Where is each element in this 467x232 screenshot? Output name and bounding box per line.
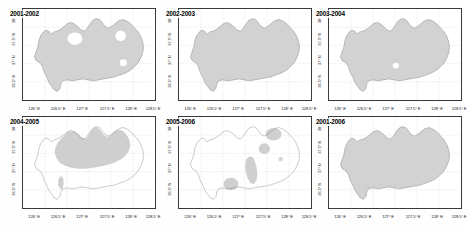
x-tick-label: 127° E [76, 214, 87, 219]
panel-title: 2005-2006 [165, 118, 196, 126]
figure-canvas: 38° N 37.5° N 37° N 36.5° N [0, 0, 467, 232]
x-axis-labels: 126° E 126.5° E 127° E 127.5° E 128° E 1… [178, 209, 312, 224]
y-tick-label: 37.5° N [12, 33, 16, 46]
y-axis-labels: 38° N 37.5° N 37° N 36.5° N [312, 8, 328, 100]
x-tick-label: 128.5° E [452, 106, 467, 111]
x-tick-label: 128° E [125, 106, 136, 111]
x-tick-label: 128.5° E [146, 214, 161, 219]
y-tick-label: 37° N [318, 55, 322, 65]
x-axis-labels: 126° E 126.5° E 127° E 127.5° E 128° E 1… [178, 101, 312, 116]
shaded-coverage [223, 128, 282, 190]
x-tick-label: 128° E [125, 214, 136, 219]
x-tick-label: 128° E [281, 106, 292, 111]
y-tick-label: 36.5° N [12, 183, 16, 196]
y-tick-label: 36.5° N [168, 183, 172, 196]
x-tick-label: 127.5° E [100, 106, 115, 111]
y-tick-label: 37.5° N [168, 141, 172, 154]
y-tick-label: 37° N [168, 163, 172, 173]
x-tick-label: 128° E [431, 214, 442, 219]
region-outline [340, 19, 449, 92]
x-tick-label: 128° E [431, 106, 442, 111]
x-tick-label: 127° E [232, 106, 243, 111]
x-tick-label: 127° E [382, 214, 393, 219]
x-tick-label: 127.5° E [406, 214, 421, 219]
region-outline [190, 127, 299, 200]
x-tick-label: 127.5° E [256, 214, 271, 219]
x-tick-label: 128° E [281, 214, 292, 219]
x-tick-label: 128.5° E [452, 214, 467, 219]
x-tick-label: 127.5° E [256, 106, 271, 111]
x-tick-label: 126° E [184, 214, 195, 219]
region-outline [190, 19, 299, 92]
x-tick-label: 127° E [382, 106, 393, 111]
plot-area [22, 116, 156, 209]
y-tick-label: 37.5° N [318, 33, 322, 46]
x-tick-label: 126.5° E [357, 214, 372, 219]
y-axis-labels: 38° N 37.5° N 37° N 36.5° N [312, 116, 328, 208]
region-outline [34, 19, 143, 92]
map-panel-2003-2004[interactable]: 38° N 37.5° N 37° N 36.5° N [312, 8, 462, 116]
y-tick-label: 37° N [12, 55, 16, 65]
y-tick-label: 37.5° N [168, 33, 172, 46]
y-tick-label: 37.5° N [318, 141, 322, 154]
unshaded-gaps [393, 63, 399, 69]
panel-title: 2002-2003 [165, 10, 196, 18]
y-tick-label: 37° N [12, 163, 16, 173]
x-tick-label: 126° E [334, 106, 345, 111]
plot-area [328, 8, 462, 101]
panel-title: 2001-2006 [315, 118, 346, 126]
x-tick-label: 126° E [334, 214, 345, 219]
x-tick-label: 128.5° E [146, 106, 161, 111]
y-tick-label: 36.5° N [168, 75, 172, 88]
y-tick-label: 36.5° N [12, 75, 16, 88]
y-axis-labels: 38° N 37.5° N 37° N 36.5° N [6, 116, 22, 208]
y-axis-labels: 38° N 37.5° N 37° N 36.5° N [162, 8, 178, 100]
x-axis-labels: 126° E 126.5° E 127° E 127.5° E 128° E 1… [328, 209, 462, 224]
panel-title: 2004-2005 [9, 118, 40, 126]
y-axis-labels: 38° N 37.5° N 37° N 36.5° N [162, 116, 178, 208]
x-tick-label: 127.5° E [100, 214, 115, 219]
plot-area [328, 116, 462, 209]
y-tick-label: 36.5° N [318, 183, 322, 196]
shaded-coverage [55, 128, 131, 189]
x-tick-label: 126.5° E [207, 106, 222, 111]
x-tick-label: 126° E [28, 106, 39, 111]
x-tick-label: 126.5° E [357, 106, 372, 111]
x-axis-labels: 126° E 126.5° E 127° E 127.5° E 128° E 1… [328, 101, 462, 116]
map-panel-2001-2006[interactable]: 38° N 37.5° N 37° N 36.5° N [312, 116, 462, 224]
x-tick-label: 126° E [184, 106, 195, 111]
x-tick-label: 127° E [76, 106, 87, 111]
map-panel-2002-2003[interactable]: 38° N 37.5° N 37° N 36.5° N [162, 8, 312, 116]
plot-area [178, 8, 312, 101]
gridlines [179, 117, 311, 208]
region-outline [340, 127, 449, 200]
y-axis-labels: 38° N 37.5° N 37° N 36.5° N [6, 8, 22, 100]
map-panel-2004-2005[interactable]: 38° N 37.5° N 37° N 36.5° N [6, 116, 156, 224]
y-tick-label: 37° N [318, 163, 322, 173]
plot-area [22, 8, 156, 101]
x-tick-label: 126.5° E [51, 106, 66, 111]
x-tick-label: 127° E [232, 214, 243, 219]
panel-title: 2001-2002 [9, 10, 40, 18]
y-tick-label: 37.5° N [12, 141, 16, 154]
x-tick-label: 126.5° E [207, 214, 222, 219]
x-tick-label: 126° E [28, 214, 39, 219]
x-axis-labels: 126° E 126.5° E 127° E 127.5° E 128° E 1… [22, 209, 156, 224]
map-panel-2005-2006[interactable]: 38° N 37.5° N 37° N 36.5° N [162, 116, 312, 224]
x-axis-labels: 126° E 126.5° E 127° E 127.5° E 128° E 1… [22, 101, 156, 116]
x-tick-label: 126.5° E [51, 214, 66, 219]
panel-title: 2003-2004 [315, 10, 346, 18]
y-tick-label: 36.5° N [318, 75, 322, 88]
map-panel-2001-2002[interactable]: 38° N 37.5° N 37° N 36.5° N [6, 8, 156, 116]
x-tick-label: 127.5° E [406, 106, 421, 111]
plot-area [178, 116, 312, 209]
y-tick-label: 37° N [168, 55, 172, 65]
